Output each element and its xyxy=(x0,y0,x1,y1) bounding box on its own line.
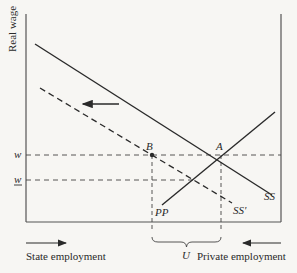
curve-ss xyxy=(35,44,272,195)
lower-wage-label: w xyxy=(14,173,22,185)
curve-ss-label: SS xyxy=(264,190,276,202)
wage-w-label: w xyxy=(14,148,22,160)
curve-pp xyxy=(162,112,275,205)
point-b-label: B xyxy=(146,140,153,152)
curve-ss-prime xyxy=(40,88,232,203)
labor-market-diagram: Real wage w w A B SS SS' PP U State empl… xyxy=(0,0,297,273)
point-b-dot xyxy=(150,153,154,157)
point-a-label: A xyxy=(215,140,223,152)
state-employment-caption: State employment xyxy=(26,250,106,262)
curve-pp-label: PP xyxy=(154,206,169,218)
y-axis-label: Real wage xyxy=(6,6,18,52)
private-employment-caption: Private employment xyxy=(197,250,286,262)
curve-ss-prime-label: SS' xyxy=(233,204,247,216)
unemployment-brace xyxy=(152,237,221,247)
unemployment-label: U xyxy=(182,249,191,261)
